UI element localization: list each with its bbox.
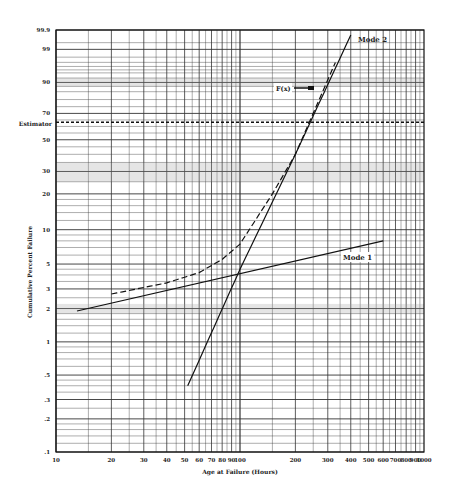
fx-label: F(x): [276, 85, 291, 93]
y-tick-label: .3: [44, 397, 50, 403]
x-tick-label: 60: [195, 457, 203, 463]
x-tick-label: 1000: [416, 457, 431, 463]
y-axis-tick-labels: 99.9999070503020105321.5.3.2.1: [37, 27, 51, 455]
x-tick-label: 40: [163, 457, 171, 463]
y-tick-label: 90: [42, 79, 50, 85]
y-tick-label: 10: [42, 227, 50, 233]
y-tick-label: .1: [44, 449, 50, 455]
annotations: Mode 2Mode 1F(x): [274, 35, 387, 262]
y-tick-label: .2: [44, 416, 50, 422]
y-tick-label: .5: [44, 372, 50, 378]
x-tick-label: 10: [52, 457, 60, 463]
x-tick-label: 70: [208, 457, 216, 463]
y-tick-label: 99.9: [37, 27, 51, 33]
y-tick-label: 99: [42, 46, 50, 52]
x-tick-label: 300: [322, 457, 334, 463]
x-tick-label: 80: [218, 457, 226, 463]
chart-grid: [56, 30, 424, 452]
x-axis-tick-labels: 1020304050607080901002003004005006007008…: [52, 457, 432, 463]
x-tick-label: 500: [363, 457, 375, 463]
weibull-probability-chart: 99.9999070503020105321.5.3.2.1 102030405…: [0, 0, 463, 499]
y-tick-label: 30: [42, 168, 50, 174]
x-tick-label: 400: [345, 457, 357, 463]
y-tick-label: 70: [42, 110, 50, 116]
curve-mode-1: [77, 241, 383, 311]
x-tick-label: 50: [181, 457, 189, 463]
x-tick-label: 20: [108, 457, 116, 463]
y-tick-label: 2: [46, 306, 50, 312]
y-tick-label: 1: [46, 339, 50, 345]
mode-2-label: Mode 2: [358, 35, 387, 44]
y-tick-label: 5: [46, 261, 50, 267]
x-tick-label: 30: [140, 457, 148, 463]
estimator-label: Estimator: [19, 120, 53, 127]
y-tick-label: 20: [42, 191, 50, 197]
mode-1-label: Mode 1: [343, 253, 372, 262]
x-axis-label: Age at Failure (Hours): [201, 468, 278, 476]
x-tick-label: 100: [234, 457, 246, 463]
x-tick-label: 200: [290, 457, 302, 463]
y-tick-label: 50: [42, 137, 50, 143]
y-axis-label: Cumulative Percent Failure: [26, 226, 33, 318]
y-tick-label: 3: [46, 286, 50, 292]
x-tick-label: 600: [377, 457, 389, 463]
